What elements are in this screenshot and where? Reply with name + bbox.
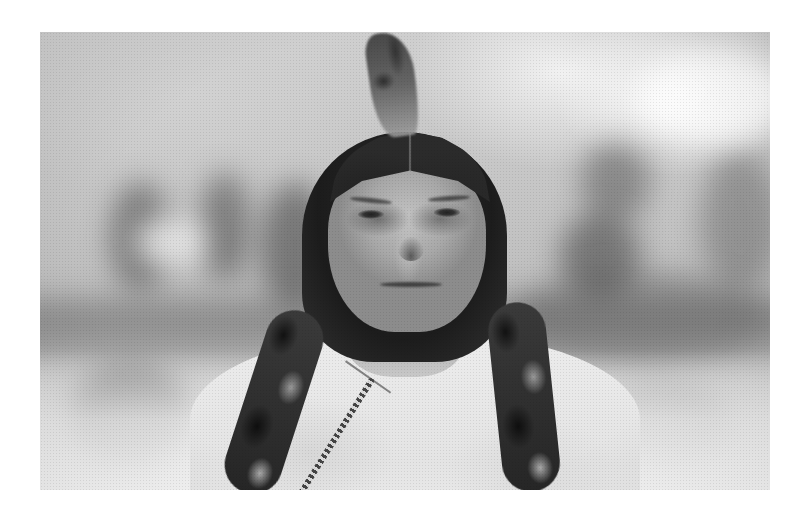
- page: [0, 0, 807, 521]
- film-grain: [40, 32, 770, 490]
- portrait-photo: [40, 32, 770, 490]
